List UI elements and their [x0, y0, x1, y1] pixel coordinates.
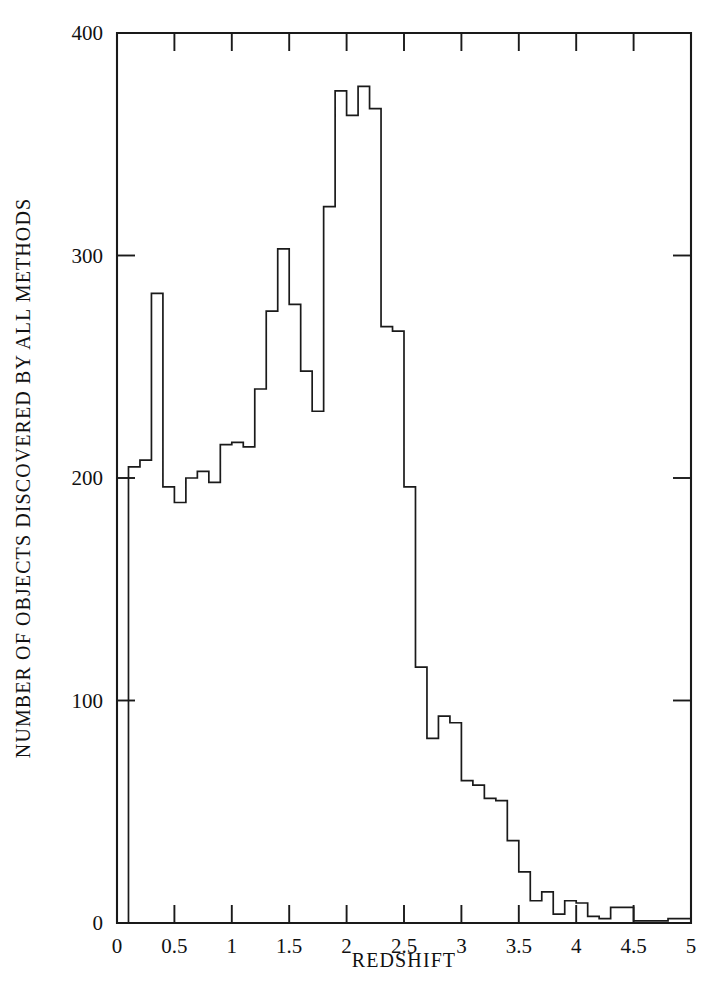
- x-tick-label-8: 4: [571, 934, 582, 958]
- x-tick-label-1: 0.5: [161, 934, 187, 958]
- y-tick-label-0: 0: [93, 911, 104, 935]
- y-tick-label-1: 100: [72, 689, 104, 713]
- x-tick-label-6: 3: [456, 934, 467, 958]
- x-tick-label-10: 5: [686, 934, 697, 958]
- x-tick-label-0: 0: [112, 934, 123, 958]
- x-tick-label-7: 3.5: [506, 934, 532, 958]
- x-tick-label-4: 2: [341, 934, 352, 958]
- histogram-step-curve: [117, 86, 691, 923]
- y-tick-label-3: 300: [72, 244, 104, 268]
- redshift-histogram-chart: 00.511.522.533.544.55 0100200300400 REDS…: [0, 0, 708, 987]
- y-axis-tick-labels: 0100200300400: [72, 21, 104, 935]
- x-tick-label-3: 1.5: [276, 934, 302, 958]
- x-axis-title: REDSHIFT: [352, 949, 456, 971]
- y-tick-label-4: 400: [72, 21, 104, 45]
- x-tick-label-2: 1: [227, 934, 238, 958]
- y-axis-title: NUMBER OF OBJECTS DISCOVERED BY ALL METH…: [12, 198, 34, 758]
- y-tick-label-2: 200: [72, 466, 104, 490]
- x-tick-label-9: 4.5: [620, 934, 646, 958]
- histogram-figure: 00.511.522.533.544.55 0100200300400 REDS…: [0, 0, 708, 987]
